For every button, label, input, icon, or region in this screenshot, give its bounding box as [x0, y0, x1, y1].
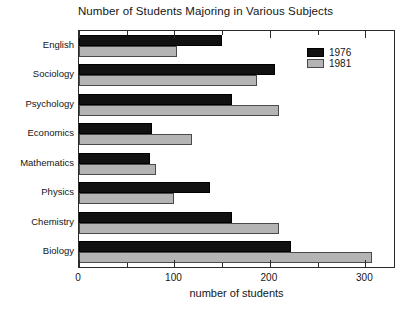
bar-mathematics-1981[interactable] [79, 164, 156, 175]
bar-english-1976[interactable] [79, 35, 222, 46]
x-tick-minor [222, 263, 223, 267]
bar-sociology-1981[interactable] [79, 75, 257, 86]
x-tick-major [79, 260, 80, 267]
bar-group [79, 153, 394, 175]
x-tick-major [270, 31, 271, 38]
x-tick-major [174, 260, 175, 267]
bar-psychology-1981[interactable] [79, 105, 279, 116]
bar-group [79, 212, 394, 234]
y-axis-labels: EnglishSociologyPsychologyEconomicsMathe… [0, 30, 74, 268]
y-axis-label-chemistry: Chemistry [0, 216, 74, 227]
chart-legend: 19761981 [307, 47, 373, 69]
x-tick-minor [318, 31, 319, 35]
y-axis-label-economics: Economics [0, 127, 74, 138]
bar-sociology-1976[interactable] [79, 64, 275, 75]
bar-economics-1981[interactable] [79, 134, 192, 145]
x-tick-minor [127, 31, 128, 35]
x-tick-major [365, 31, 366, 38]
x-tick-major [79, 31, 80, 38]
x-axis-title: number of students [78, 287, 395, 299]
y-axis-label-sociology: Sociology [0, 68, 74, 79]
legend-swatch-1981 [307, 59, 324, 68]
y-axis-label-psychology: Psychology [0, 98, 74, 109]
x-tick-major [365, 260, 366, 267]
legend-item-1976[interactable]: 1976 [307, 47, 373, 58]
x-axis-label-200: 200 [261, 272, 278, 283]
x-axis-label-0: 0 [75, 272, 81, 283]
y-axis-label-biology: Biology [0, 245, 74, 256]
bar-group [79, 94, 394, 116]
x-axis-label-300: 300 [356, 272, 373, 283]
x-tick-minor [222, 31, 223, 35]
legend-item-1981[interactable]: 1981 [307, 58, 373, 69]
bar-group [79, 123, 394, 145]
bar-group [79, 241, 394, 263]
chart-title: Number of Students Majoring in Various S… [0, 5, 411, 17]
x-tick-major [270, 260, 271, 267]
bar-psychology-1976[interactable] [79, 94, 232, 105]
y-axis-label-physics: Physics [0, 186, 74, 197]
x-tick-minor [127, 263, 128, 267]
bar-physics-1981[interactable] [79, 193, 174, 204]
y-axis-label-mathematics: Mathematics [0, 157, 74, 168]
bar-chemistry-1976[interactable] [79, 212, 232, 223]
bar-chemistry-1981[interactable] [79, 223, 279, 234]
x-axis-label-100: 100 [165, 272, 182, 283]
y-axis-label-english: English [0, 39, 74, 50]
bar-english-1981[interactable] [79, 46, 177, 57]
bar-mathematics-1976[interactable] [79, 153, 150, 164]
legend-swatch-1976 [307, 48, 324, 57]
legend-label-1981: 1981 [329, 58, 351, 69]
bar-group [79, 182, 394, 204]
x-tick-minor [318, 263, 319, 267]
bar-biology-1976[interactable] [79, 241, 291, 252]
legend-label-1976: 1976 [329, 47, 351, 58]
x-tick-major [174, 31, 175, 38]
bar-biology-1981[interactable] [79, 252, 372, 263]
bar-chart: Number of Students Majoring in Various S… [0, 0, 411, 311]
bar-economics-1976[interactable] [79, 123, 152, 134]
bar-physics-1976[interactable] [79, 182, 210, 193]
x-axis-tick-labels: 0100200300 [78, 272, 395, 286]
